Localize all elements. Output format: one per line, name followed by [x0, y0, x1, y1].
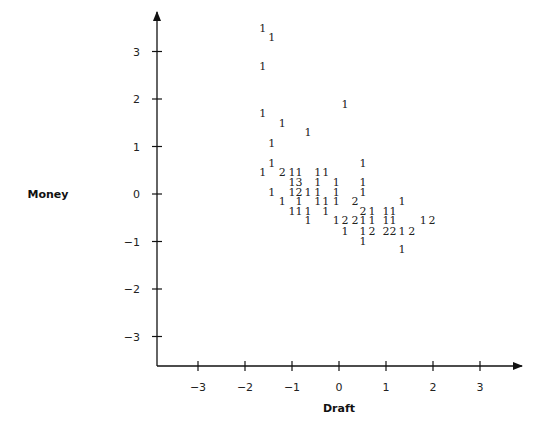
y-tick-label: −1	[124, 236, 140, 249]
data-point: 1	[359, 235, 366, 248]
data-points: 1111111111121111131111121111111112111112…	[259, 22, 435, 256]
y-tick-label: 0	[133, 188, 140, 201]
x-tick-label: 2	[430, 381, 437, 394]
data-point: 1	[322, 166, 329, 179]
data-point: 1	[289, 186, 296, 199]
y-tick-label: 2	[133, 93, 140, 106]
data-point: 1	[304, 214, 311, 227]
data-point: 1	[314, 195, 321, 208]
data-point: 1	[333, 195, 340, 208]
data-point: 1	[398, 243, 405, 256]
data-point: 1	[268, 157, 275, 170]
data-point: 1	[398, 195, 405, 208]
x-tick-label: 1	[383, 381, 390, 394]
data-point: 1	[279, 117, 286, 130]
data-point: 1	[296, 205, 303, 218]
data-point: 1	[333, 214, 340, 227]
data-point: 1	[268, 186, 275, 199]
data-point: 1	[304, 126, 311, 139]
data-point: 1	[259, 60, 266, 73]
data-point: 2	[383, 225, 390, 238]
data-point: 2	[429, 214, 436, 227]
y-tick-label: −3	[124, 331, 140, 344]
y-axis-title: Money	[28, 188, 69, 201]
data-point: 1	[398, 225, 405, 238]
y-ticks: −3−2−10123	[124, 46, 162, 344]
data-point: 2	[351, 195, 358, 208]
y-tick-label: −2	[124, 283, 140, 296]
data-point: 1	[289, 205, 296, 218]
data-point: 1	[322, 205, 329, 218]
data-point: 1	[359, 157, 366, 170]
data-point: 1	[259, 107, 266, 120]
data-point: 1	[342, 225, 349, 238]
data-point: 2	[351, 214, 358, 227]
y-tick-label: 3	[133, 46, 140, 59]
data-point: 1	[304, 186, 311, 199]
data-point: 2	[368, 225, 375, 238]
x-tick-label: 3	[477, 381, 484, 394]
data-point: 1	[259, 166, 266, 179]
data-point: 1	[268, 31, 275, 44]
data-point: 1	[342, 98, 349, 111]
scatter-plot: −3−2−10123 −3−2−10123 111111111112111113…	[0, 0, 541, 438]
data-point: 2	[390, 225, 397, 238]
data-point: 1	[279, 195, 286, 208]
data-point: 2	[279, 166, 286, 179]
y-tick-label: 1	[133, 141, 140, 154]
data-point: 1	[420, 214, 427, 227]
x-tick-label: −3	[190, 381, 206, 394]
data-point: 1	[359, 186, 366, 199]
data-point: 2	[408, 225, 415, 238]
x-axis-title: Draft	[323, 402, 355, 415]
data-point: 1	[259, 22, 266, 35]
x-tick-label: −1	[284, 381, 300, 394]
data-point: 1	[268, 137, 275, 150]
x-tick-label: 0	[336, 381, 343, 394]
x-tick-label: −2	[237, 381, 253, 394]
